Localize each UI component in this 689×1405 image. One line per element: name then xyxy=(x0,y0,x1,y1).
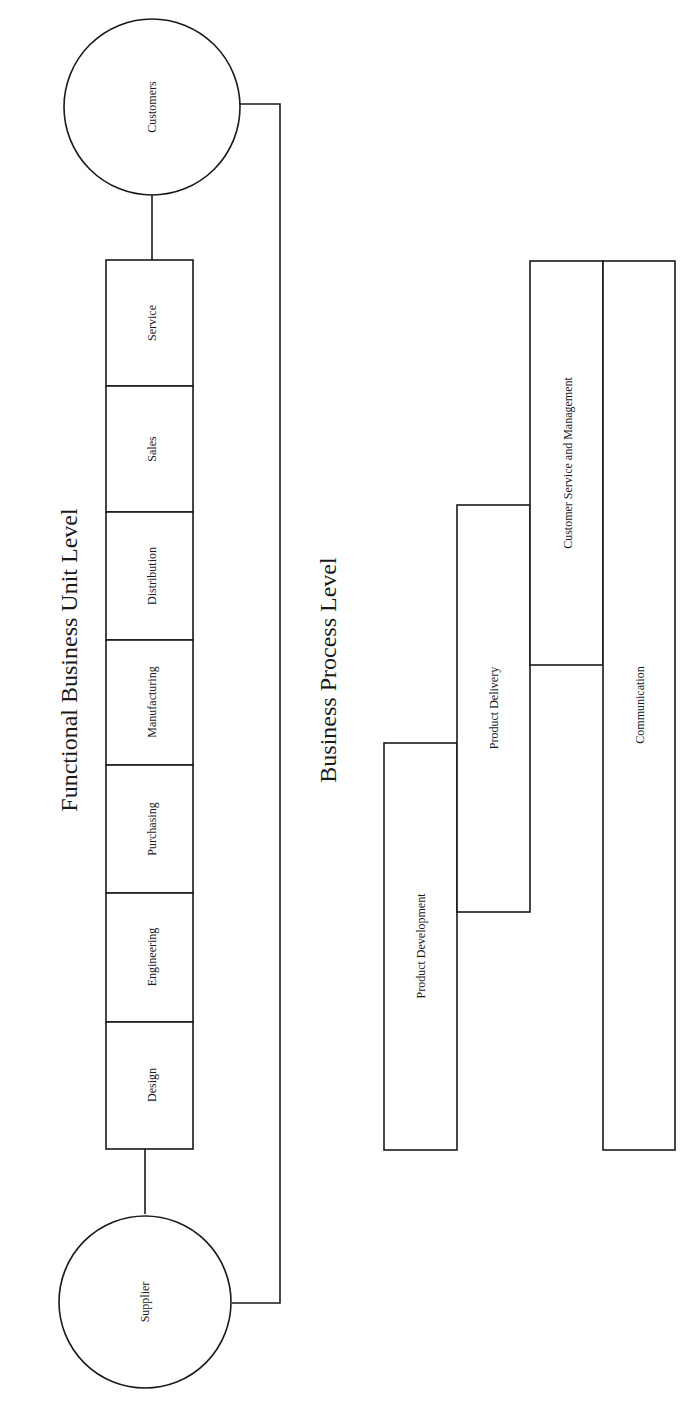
unit-service-label: Service xyxy=(145,305,159,341)
business-levels-diagram: Functional Business Unit Level Customers… xyxy=(0,0,689,1405)
process-communication-label: Communication xyxy=(633,666,647,743)
supplier-node: Supplier xyxy=(59,1216,231,1388)
process-customer-service-label: Customer Service and Management xyxy=(561,377,575,549)
unit-distribution-label: Distribution xyxy=(145,547,159,605)
unit-manufacturing-label: Manufacturing xyxy=(145,666,159,737)
functional-level-title: Functional Business Unit Level xyxy=(56,508,82,812)
process-blocks: Product Development Product Delivery Cus… xyxy=(384,261,675,1150)
supplier-label: Supplier xyxy=(138,1282,152,1323)
unit-design-label: Design xyxy=(145,1068,159,1102)
process-product-delivery-label: Product Delivery xyxy=(487,667,501,749)
feedback-connector xyxy=(232,104,280,1303)
customers-label: Customers xyxy=(145,81,159,133)
unit-purchasing-label: Purchasing xyxy=(145,802,159,855)
customers-node: Customers xyxy=(64,19,240,195)
unit-engineering-label: Engineering xyxy=(145,928,159,987)
process-product-development-label: Product Development xyxy=(414,893,428,999)
functional-units-chain: Service Sales Distribution Manufacturing… xyxy=(106,260,193,1149)
unit-sales-label: Sales xyxy=(145,436,159,462)
process-level-title: Business Process Level xyxy=(315,557,341,783)
